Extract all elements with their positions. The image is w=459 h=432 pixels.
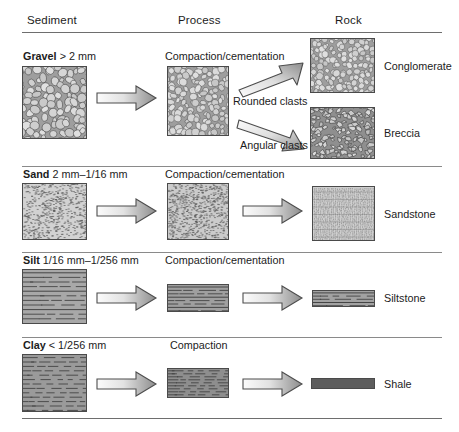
column-header-process: Process: [178, 14, 221, 26]
rock-label-siltstone: Siltstone: [384, 292, 425, 304]
texture-clay-process: [167, 368, 229, 398]
row-divider-1: [22, 166, 442, 167]
bottom-divider: [22, 418, 442, 419]
process-label-silt: Compaction/cementation: [165, 254, 284, 266]
process-label-sand: Compaction/cementation: [165, 168, 284, 180]
texture-sand-sediment: [22, 183, 87, 240]
arrow-clay-to-process: [96, 370, 158, 398]
process-label-clay: Compaction: [170, 339, 228, 351]
sediment-name-sand: Sand: [23, 168, 49, 180]
arrow-clay-to-rock: [242, 370, 304, 398]
branch-label-rounded-clasts: Rounded clasts: [233, 95, 307, 107]
texture-sandstone: [312, 186, 375, 241]
branch-label-angular-clasts: Angular clasts: [240, 139, 308, 151]
column-header-sediment: Sediment: [27, 14, 77, 26]
rock-label-conglomerate: Conglomerate: [384, 60, 452, 72]
texture-clay-sediment: [22, 354, 87, 412]
header-divider: [22, 32, 442, 33]
arrow-gravel-to-process: [96, 84, 158, 112]
diagram-canvas: Sediment Process Rock Gravel > 2 mm Comp…: [0, 0, 459, 432]
arrow-sand-to-rock: [242, 197, 304, 225]
arrow-silt-to-process: [96, 284, 158, 312]
rock-label-shale: Shale: [384, 378, 412, 390]
sediment-range-sand: 2 mm–1/16 mm: [52, 168, 127, 180]
texture-breccia: [310, 107, 375, 159]
rock-label-breccia: Breccia: [384, 127, 420, 139]
sediment-name-gravel: Gravel: [23, 50, 57, 62]
texture-silt-sediment: [22, 269, 87, 324]
texture-shale: [311, 378, 375, 389]
texture-gravel-process: [167, 66, 229, 136]
sediment-name-silt: Silt: [23, 254, 40, 266]
row-divider-2: [22, 252, 442, 253]
sediment-range-gravel: > 2 mm: [60, 50, 96, 62]
row-label-silt: Silt 1/16 mm–1/256 mm: [23, 254, 139, 266]
texture-sand-process: [167, 183, 229, 240]
sediment-name-clay: Clay: [23, 339, 46, 351]
row-label-sand: Sand 2 mm–1/16 mm: [23, 168, 127, 180]
texture-siltstone: [312, 290, 375, 307]
texture-conglomerate: [310, 38, 375, 93]
texture-gravel-sediment: [22, 66, 87, 139]
row-divider-3: [22, 337, 442, 338]
arrow-sand-to-process: [96, 197, 158, 225]
arrow-silt-to-rock: [242, 284, 304, 312]
row-label-gravel: Gravel > 2 mm: [23, 50, 96, 62]
texture-silt-process: [167, 284, 229, 312]
rock-label-sandstone: Sandstone: [384, 208, 436, 220]
row-label-clay: Clay < 1/256 mm: [23, 339, 106, 351]
arrow-rounded-clasts: [236, 58, 308, 100]
sediment-range-silt: 1/16 mm–1/256 mm: [43, 254, 139, 266]
column-header-rock: Rock: [335, 14, 362, 26]
sediment-range-clay: < 1/256 mm: [49, 339, 106, 351]
